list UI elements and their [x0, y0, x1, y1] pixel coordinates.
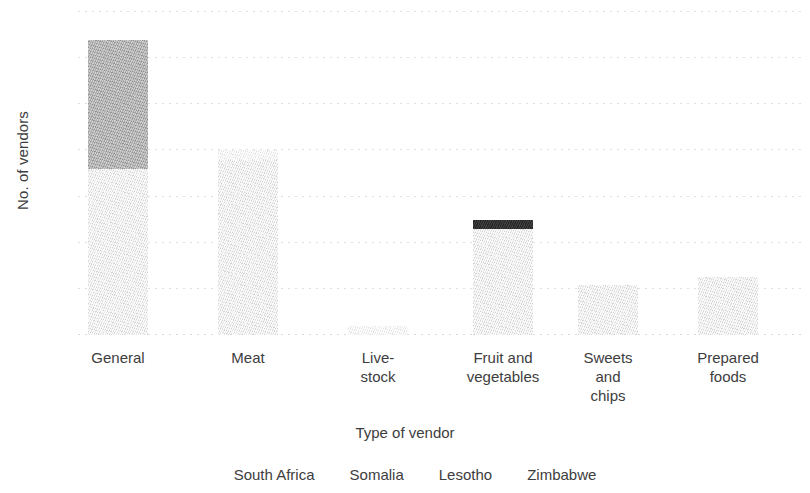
bar-segment-somalia: [88, 40, 148, 169]
gridline: [78, 103, 802, 104]
bar-segment-south-africa: [88, 169, 148, 335]
y-axis-title: No. of vendors: [14, 81, 31, 241]
plot-area: 35302520151050: [78, 12, 802, 335]
x-axis-tick-label-line: Live-: [314, 348, 442, 367]
gridline: [78, 334, 802, 335]
x-axis-tick-label-line: and: [544, 367, 672, 386]
bar-prepared-foods[interactable]: [698, 277, 758, 335]
legend-label: Somalia: [350, 466, 404, 483]
legend-label: South Africa: [234, 466, 315, 483]
legend-swatch-icon: [419, 468, 433, 482]
bar-sweets-and-chips[interactable]: [578, 285, 638, 335]
legend-item-lesotho[interactable]: Lesotho: [419, 466, 492, 483]
gridline: [78, 196, 802, 197]
bar-segment-lesotho: [348, 326, 408, 335]
x-axis-tick-label: Meat: [184, 348, 312, 367]
bar-segment-south-africa: [218, 160, 278, 335]
gridline: [78, 57, 802, 58]
x-axis-title: Type of vendor: [0, 424, 810, 441]
chart-legend: South AfricaSomaliaLesothoZimbabwe: [0, 466, 810, 483]
gridline: [78, 288, 802, 289]
x-axis-tick-label-line: foods: [664, 367, 792, 386]
gridline: [78, 242, 802, 243]
bar-live-stock[interactable]: [348, 326, 408, 335]
x-axis-tick-label: Preparedfoods: [664, 348, 792, 386]
bar-chart: No. of vendors 35302520151050 GeneralMea…: [0, 0, 810, 493]
legend-swatch-icon: [214, 468, 228, 482]
x-axis-tick-label-line: stock: [314, 367, 442, 386]
legend-item-zimbabwe[interactable]: Zimbabwe: [507, 466, 596, 483]
x-axis-tick-label-line: General: [54, 348, 182, 367]
bar-segment-lesotho: [218, 150, 278, 159]
legend-label: Zimbabwe: [527, 466, 596, 483]
x-axis-tick-label-line: Meat: [184, 348, 312, 367]
legend-swatch-icon: [507, 468, 521, 482]
x-axis-tick-label-line: Sweets: [544, 348, 672, 367]
gridline: [78, 149, 802, 150]
bar-meat[interactable]: [218, 150, 278, 335]
legend-item-somalia[interactable]: Somalia: [330, 466, 404, 483]
legend-item-south-africa[interactable]: South Africa: [214, 466, 315, 483]
bar-segment-south-africa: [578, 285, 638, 335]
x-axis-tick-label: General: [54, 348, 182, 367]
legend-label: Lesotho: [439, 466, 492, 483]
x-axis-tick-label-line: Prepared: [664, 348, 792, 367]
legend-swatch-icon: [330, 468, 344, 482]
x-axis-tick-label: Live-stock: [314, 348, 442, 386]
gridline: [78, 11, 802, 12]
bar-fruit-and-vegetables[interactable]: [473, 220, 533, 335]
bar-general[interactable]: [88, 40, 148, 335]
bar-segment-south-africa: [698, 277, 758, 335]
x-axis-tick-label: Sweetsandchips: [544, 348, 672, 405]
x-axis-tick-label-line: chips: [544, 386, 672, 405]
bar-segment-zimbabwe: [473, 220, 533, 229]
bar-segment-south-africa: [473, 229, 533, 335]
